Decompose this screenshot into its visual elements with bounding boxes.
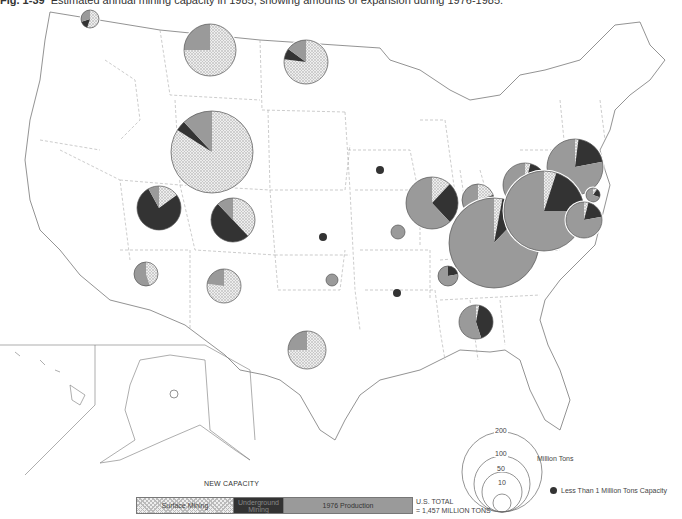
- pie-kansas: [319, 233, 327, 241]
- us-map: [0, 0, 682, 519]
- bar-1976-production: 1976 Production: [283, 497, 413, 514]
- inset-alaska-hawaii: [0, 345, 255, 475]
- surface-mining-label: Surface Mining: [162, 502, 209, 509]
- pie-illinois: [405, 176, 460, 231]
- pie-iowa: [376, 166, 384, 174]
- small-capacity-legend: Less Than 1 Million Tons Capacity: [550, 487, 667, 494]
- bar-surface-mining: Surface Mining: [136, 497, 234, 514]
- scale-label-10: 10: [497, 479, 507, 486]
- underground-mining-label: Underground Mining: [234, 499, 283, 513]
- us-total-title: U.S. TOTAL: [416, 497, 491, 506]
- pie-utah: [136, 185, 183, 232]
- pie-new-mexico: [206, 268, 243, 305]
- pie-alabama: [458, 304, 495, 341]
- pie-alaska: [170, 390, 178, 398]
- pie-colorado: [210, 197, 257, 244]
- pie-wyoming: [170, 110, 255, 195]
- us-total-value: = 1,457 MILLION TONS: [416, 506, 491, 515]
- pie-virginia: [565, 201, 604, 240]
- scale-unit-label: Million Tons: [537, 455, 573, 462]
- new-capacity-title: NEW CAPACITY: [204, 480, 259, 487]
- pie-washington: [80, 9, 101, 30]
- state-pie-charts: [80, 9, 605, 399]
- pie-north-dakota: [283, 39, 330, 86]
- pie-oklahoma: [325, 273, 340, 288]
- scale-label-100: 100: [494, 450, 508, 457]
- scale-label-200: 200: [494, 427, 508, 434]
- us-total: U.S. TOTAL = 1,457 MILLION TONS: [416, 497, 491, 515]
- pie-arizona: [133, 261, 160, 288]
- production-label: 1976 Production: [323, 502, 374, 509]
- scale-label-50: 50: [496, 465, 506, 472]
- small-capacity-label: Less Than 1 Million Tons Capacity: [561, 487, 667, 494]
- pie-arkansas: [393, 289, 401, 297]
- small-capacity-dot-icon: [550, 487, 557, 494]
- pie-tennessee: [437, 265, 460, 288]
- pie-missouri: [390, 224, 407, 241]
- pie-montana: [183, 23, 238, 78]
- pie-texas: [287, 330, 328, 371]
- bar-underground-mining: Underground Mining: [233, 497, 284, 514]
